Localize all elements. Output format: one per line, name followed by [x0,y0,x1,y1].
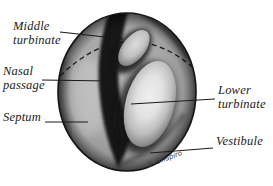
label-lower-turbinate: Lower turbinate [218,84,266,111]
label-vestibule: Vestibule [216,135,263,149]
label-nasal-passage: Nasal passage [3,65,45,92]
label-septum: Septum [3,111,41,125]
label-middle-turbinate: Middle turbinate [13,20,61,47]
figure-canvas: S. Shapiro Middle turbinate Nasal passag… [0,0,273,186]
